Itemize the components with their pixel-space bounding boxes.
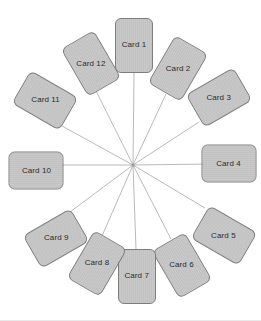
card-7[interactable]: Card 7	[118, 249, 156, 304]
card-label: Card 4	[217, 159, 242, 167]
card-label: Card 7	[125, 272, 150, 280]
card-1[interactable]: Card 1	[115, 18, 153, 73]
card-label: Card 5	[212, 231, 237, 239]
card-10[interactable]: Card 10	[9, 151, 64, 189]
card-label: Card 2	[166, 64, 191, 72]
card-label: Card 8	[85, 259, 110, 267]
card-label: Card 12	[76, 59, 105, 67]
hub-center-dot	[132, 164, 135, 167]
spoke-line	[96, 91, 133, 165]
card-label: Card 6	[170, 261, 195, 269]
spoke-line	[133, 73, 134, 165]
spoke-line	[102, 165, 133, 236]
card-4[interactable]: Card 4	[202, 144, 257, 182]
card-label: Card 3	[207, 93, 232, 101]
card-label: Card 1	[122, 41, 147, 49]
radial-card-diagram: Card 1Card 2Card 3Card 4Card 5Card 6Card…	[0, 0, 261, 321]
card-label: Card 9	[44, 234, 69, 242]
spoke-line	[62, 126, 133, 165]
spoke-line	[70, 165, 133, 212]
spoke-line	[133, 164, 211, 165]
card-label: Card 11	[31, 96, 60, 104]
spoke-line	[133, 165, 136, 249]
card-label: Card 10	[21, 166, 50, 174]
